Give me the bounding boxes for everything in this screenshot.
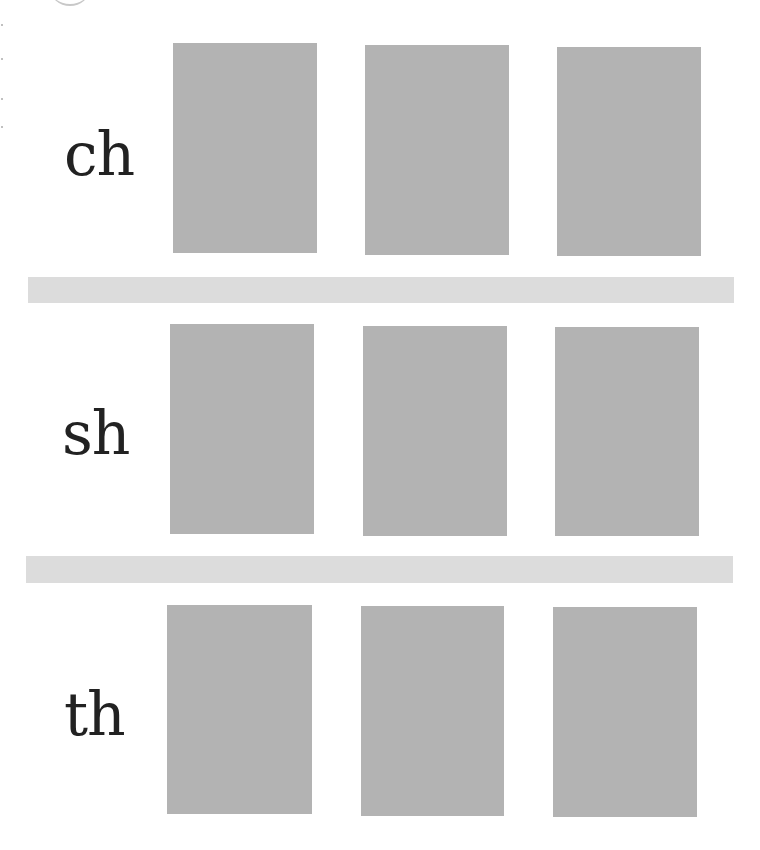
digraph-label-th: th	[64, 684, 125, 744]
picture-box-3[interactable]	[557, 47, 701, 256]
picture-box-1[interactable]	[170, 324, 314, 534]
divider-bar	[28, 277, 734, 303]
picture-box-1[interactable]	[167, 605, 312, 814]
page-edge-arc	[50, 0, 90, 6]
picture-box-2[interactable]	[363, 326, 507, 536]
picture-box-3[interactable]	[553, 607, 697, 817]
picture-box-3[interactable]	[555, 327, 699, 536]
digraph-label-ch: ch	[64, 124, 134, 184]
picture-box-2[interactable]	[361, 606, 504, 816]
picture-box-2[interactable]	[365, 45, 509, 255]
margin-marks	[1, 0, 5, 140]
divider-bar	[26, 556, 733, 583]
digraph-label-sh: sh	[62, 403, 129, 463]
picture-box-1[interactable]	[173, 43, 317, 253]
